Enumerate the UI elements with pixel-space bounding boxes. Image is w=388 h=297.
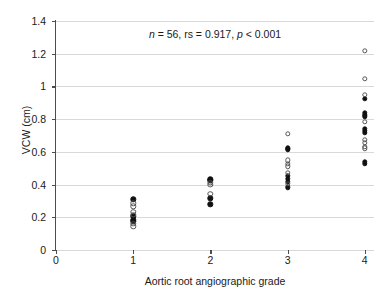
data-point-open [362,48,367,53]
y-tick-mark [52,119,56,120]
y-tick-mark [52,152,56,153]
data-point-open [208,182,213,187]
scatter-plot-figure: 00.20.40.60.811.21.4 01234 VCW (cm) Aort… [0,0,388,297]
x-tick-label: 0 [53,254,59,266]
gridline [56,21,374,22]
y-tick-label: 0 [0,244,46,256]
y-axis-title: VCW (cm) [20,70,32,190]
data-point-open [208,191,213,196]
y-tick-mark [52,185,56,186]
gridline [56,185,374,186]
data-point-filled [362,130,367,135]
gridline [56,152,374,153]
y-tick-label: 0.2 [0,211,46,223]
x-tick-label: 1 [130,254,136,266]
data-point-open [362,146,367,151]
y-tick-label: 1.4 [0,15,46,27]
data-point-filled [208,201,213,206]
data-point-open [362,76,367,81]
y-tick-mark [52,86,56,87]
x-tick-label: 3 [285,254,291,266]
data-point-open [130,203,135,208]
data-point-filled [208,196,213,201]
data-point-filled [362,161,367,166]
gridline [56,119,374,120]
y-tick-mark [52,217,56,218]
y-tick-mark [52,54,56,55]
statistics-annotation: n = 56, rs = 0.917, p < 0.001 [56,28,374,40]
data-point-open [130,224,135,229]
gridline [56,217,374,218]
x-axis-line [56,250,374,251]
x-tick-label: 4 [362,254,368,266]
data-point-open [285,164,290,169]
data-point-filled [362,113,367,118]
gridline [56,54,374,55]
data-point-open [362,119,367,124]
gridline [56,86,374,87]
data-point-open [285,131,290,136]
y-tick-label: 1.2 [0,48,46,60]
y-tick-mark [52,21,56,22]
plot-area [56,21,374,250]
x-axis-title: Aortic root angiographic grade [56,275,374,287]
x-tick-label: 2 [207,254,213,266]
